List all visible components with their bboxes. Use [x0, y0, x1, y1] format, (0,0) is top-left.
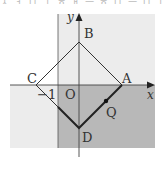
y-axis-label: y [66, 10, 74, 24]
tick-label-neg1: −1 [37, 87, 56, 102]
label-q: Q [106, 105, 117, 120]
x-axis-label: x [147, 88, 154, 102]
label-d: D [82, 130, 92, 145]
label-a: A [121, 71, 132, 86]
label-b: B [84, 26, 94, 41]
label-origin: O [65, 87, 76, 102]
point-q-dot [104, 99, 108, 103]
light-region-upper [58, 14, 155, 85]
label-c: C [27, 71, 37, 86]
coordinate-diagram: y x B A C D Q O −1 [0, 0, 162, 170]
